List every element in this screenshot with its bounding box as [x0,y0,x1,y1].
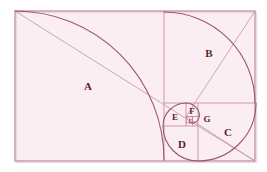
label-g: G [203,114,210,124]
label-f: F [189,106,195,116]
diagram-canvas: A B C D E F G [0,0,267,172]
label-d: D [178,138,186,150]
golden-ratio-figure: A B C D E F G [0,0,267,172]
label-e: E [172,112,178,122]
label-a: A [84,80,92,92]
label-b: B [205,47,213,59]
label-c: C [224,126,232,138]
